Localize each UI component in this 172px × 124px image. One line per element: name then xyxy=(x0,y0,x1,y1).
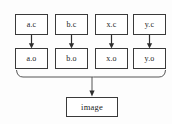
node-source-b-c[interactable]: b.c xyxy=(55,14,88,35)
node-source-y-c[interactable]: y.c xyxy=(133,14,166,35)
node-source-x-c[interactable]: x.c xyxy=(95,14,128,35)
node-object-b-o[interactable]: b.o xyxy=(55,48,88,69)
diagram-canvas: a.c b.c x.c y.c a.o b.o x.o y.o image xyxy=(0,0,172,124)
edge-yc-to-yo xyxy=(147,35,152,49)
edge-bc-to-bo xyxy=(69,35,74,49)
edge-xc-to-xo xyxy=(109,35,114,49)
node-object-y-o[interactable]: y.o xyxy=(133,48,166,69)
edge-ac-to-ao xyxy=(29,35,34,49)
node-object-a-o[interactable]: a.o xyxy=(15,48,48,69)
node-object-x-o[interactable]: x.o xyxy=(95,48,128,69)
node-target-image[interactable]: image xyxy=(66,97,118,117)
node-source-a-c[interactable]: a.c xyxy=(15,14,48,35)
edge-objects-to-image xyxy=(17,70,166,97)
